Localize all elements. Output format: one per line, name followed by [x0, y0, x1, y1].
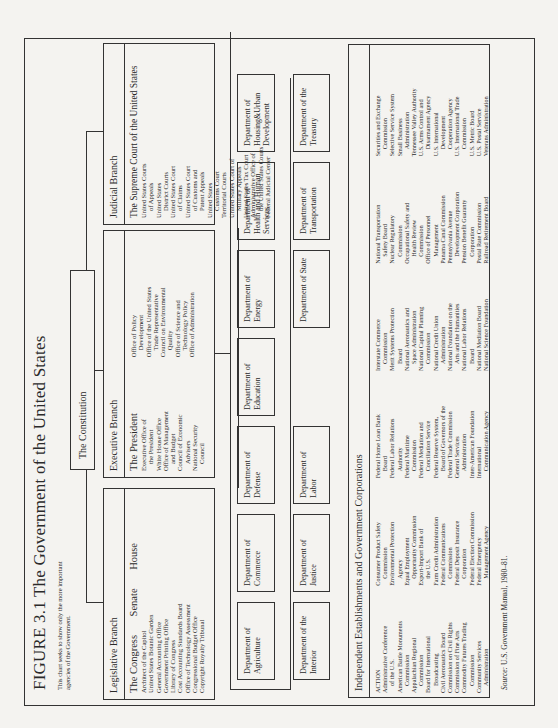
- department-hud: Department of Housing&Urban Development: [237, 74, 275, 152]
- source-label: Source:: [500, 667, 509, 690]
- judicial-item: of Claims: [176, 140, 183, 218]
- judicial-item: United States Court: [184, 140, 191, 218]
- connector: [290, 78, 291, 690]
- executive-item: Technology Policy: [181, 237, 188, 357]
- judicial-item: Patent Appeals: [198, 140, 205, 218]
- figure-title: FIGURE 3.1 The Government of the United …: [30, 336, 50, 691]
- department-justice: Department of Justice: [293, 514, 330, 592]
- legislative-item: Architect of the Capitol: [140, 495, 147, 693]
- connector: [86, 131, 103, 132]
- judicial-branch-box: Judicial Branch The Supreme Court of the…: [103, 43, 215, 225]
- executive-item: the President: [147, 359, 154, 471]
- independent-column-3: Federal Home Loan BankBoardFederal Labor…: [374, 371, 489, 478]
- legislative-item: Copyright Royalty Tribunal: [198, 495, 205, 693]
- connector: [86, 602, 103, 603]
- congress-label: The Congress: [128, 635, 140, 693]
- rotated-page: FIGURE 3.1 The Government of the United …: [0, 0, 558, 728]
- department-commerce: Department of Commerce: [237, 514, 275, 592]
- judicial-item: United States: [206, 126, 213, 218]
- executive-item: and Budget: [169, 359, 176, 471]
- independent-column-5: National TransportationSafety BoardNucle…: [374, 156, 489, 263]
- legislative-item: Congressional Budget Office: [191, 495, 198, 693]
- legislative-branch-box: Legislative Branch The Congress Senate H…: [103, 488, 215, 700]
- judicial-item: United States: [155, 140, 162, 218]
- judicial-item: District Courts: [162, 140, 169, 218]
- legislative-item: Cost Accounting Standards Board: [176, 495, 183, 693]
- house-label: House: [128, 543, 140, 570]
- connector: [95, 370, 103, 371]
- executive-item: Office of the United States: [145, 237, 152, 357]
- independent-column-4: Interstate CommerceCommissionMerit Syste…: [374, 264, 489, 371]
- executive-item: Trade Representative: [152, 237, 159, 357]
- executive-heading: Executive Branch: [104, 231, 125, 477]
- independent-establishments-box: Independent Establishments and Governmen…: [348, 44, 490, 698]
- judicial-item: United States Courts: [140, 140, 147, 218]
- executive-item: Office of Policy: [130, 237, 137, 357]
- independent-column-1: ACTIONAdministrative Conferenceof the U.…: [374, 586, 489, 693]
- executive-item: Office of Science and: [174, 237, 181, 357]
- judicial-item: United States Court: [169, 140, 176, 218]
- department-energy: Department of Energy: [237, 250, 275, 328]
- independent-column-2: Consumer Product SafetyCommissionEnviron…: [374, 478, 489, 585]
- connector: [86, 132, 87, 270]
- constitution-label: The Constitution: [77, 392, 88, 460]
- senate-label: Senate: [128, 588, 140, 616]
- connector: [86, 470, 87, 603]
- judicial-item: of Appeals: [147, 140, 154, 218]
- executive-item: Office of Administration: [188, 237, 195, 357]
- department-state: Department of State: [293, 250, 330, 328]
- legislative-item: United States Botanic Garden: [147, 495, 154, 693]
- supreme-court-label: The Supreme Court of the United States: [128, 50, 140, 218]
- independent-column-6: Securities and ExchangeCommissionSelecti…: [374, 49, 489, 156]
- connector: [215, 353, 230, 354]
- figure-note: This chart seeks to show only the more i…: [56, 540, 72, 690]
- department-education: Department of Education: [237, 338, 275, 416]
- judicial-item: of Customs and: [191, 140, 198, 218]
- judicial-item: Territorial Courts: [220, 126, 227, 218]
- legislative-item: General Accounting Office: [155, 495, 162, 693]
- source-citation: Source: U.S. Government Manual, 1980–81.: [500, 556, 509, 690]
- executive-item: Office of Management: [162, 359, 169, 471]
- executive-item: Council of Economic: [176, 359, 183, 471]
- connector: [230, 32, 231, 690]
- judicial-item: Customs Court: [213, 126, 220, 218]
- department-treasury: Department of the Treasury: [293, 74, 330, 152]
- department-transportation: Department of Transportation: [293, 162, 330, 240]
- executive-item: National Security: [191, 359, 198, 471]
- executive-branch-box: Executive Branch The President Executive…: [103, 230, 215, 478]
- executive-item: White House Office: [155, 359, 162, 471]
- department-interior: Department of the Interior: [293, 602, 330, 680]
- judicial-item: United States Court of: [228, 126, 235, 218]
- legislative-item: Government Printing Office: [162, 495, 169, 693]
- executive-item: Council: [198, 359, 205, 471]
- constitution-box: The Constitution: [70, 270, 95, 470]
- source-text: U.S. Government Manual, 1980–81.: [500, 556, 509, 665]
- executive-item: Council on Environmental: [159, 237, 166, 357]
- executive-item: Advisers: [184, 359, 191, 471]
- legislative-item: Library of Congress: [169, 495, 176, 693]
- judicial-heading: Judicial Branch: [104, 44, 125, 224]
- connector: [230, 689, 290, 690]
- executive-item: Executive Office of: [140, 359, 147, 471]
- department-defense: Department of Defense: [237, 426, 275, 504]
- independent-heading: Independent Establishments and Governmen…: [349, 45, 370, 697]
- department-hhs: Department of Health and Human Services: [237, 162, 275, 240]
- department-agriculture: Department of Agriculture: [237, 602, 275, 680]
- department-labor: Department of Labor: [293, 426, 330, 504]
- legislative-heading: Legislative Branch: [104, 489, 125, 699]
- executive-item: Development: [137, 237, 144, 357]
- legislative-item: Office of Technology Assessment: [184, 495, 191, 693]
- executive-item: Quality: [166, 237, 173, 357]
